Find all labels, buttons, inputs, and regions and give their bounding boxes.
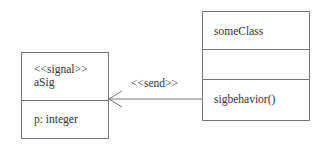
class-operations-divider bbox=[203, 79, 309, 80]
signal-name: aSig bbox=[34, 76, 54, 89]
class-attributes-divider bbox=[203, 49, 309, 50]
class-box-someclass[interactable]: someClass sigbehavior() bbox=[202, 11, 310, 121]
class-operation: sigbehavior() bbox=[214, 93, 275, 106]
send-stereotype-label: <<send>> bbox=[131, 77, 178, 90]
signal-stereotype: <<signal>> bbox=[34, 63, 87, 76]
signal-box-asig[interactable]: <<signal>> aSig p: integer bbox=[21, 52, 109, 139]
signal-attribute: p: integer bbox=[34, 113, 78, 126]
class-name: someClass bbox=[214, 25, 263, 38]
signal-compartment-divider bbox=[22, 100, 108, 101]
